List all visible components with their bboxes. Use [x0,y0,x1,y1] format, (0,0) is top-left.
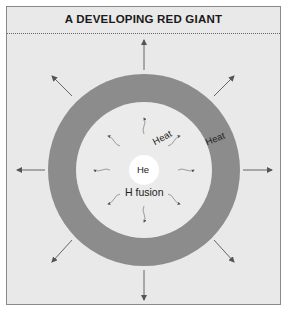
core-label: He [137,164,149,175]
red-giant-diagram [0,0,289,317]
shell-label: H fusion [125,186,164,198]
